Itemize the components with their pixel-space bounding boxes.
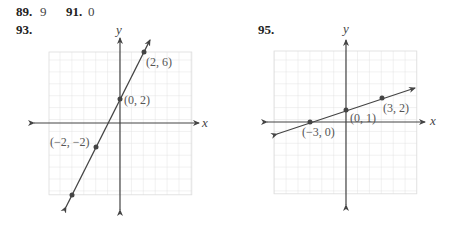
- point-2-6: [142, 50, 147, 55]
- label-neg2-neg2: (−2, −2): [50, 135, 90, 149]
- y-axis-label-93: y: [114, 22, 122, 37]
- graphs: x y (2, 6) (0, 2) (−2, −2) x y (3, 2) (0…: [0, 0, 461, 225]
- point-3-2: [380, 96, 385, 101]
- point-neg3-0: [308, 120, 313, 125]
- label-0-2: (0, 2): [124, 93, 150, 107]
- label-2-6: (2, 6): [146, 55, 172, 69]
- x-axis-label-95: x: [429, 113, 436, 128]
- graph-93: x y (2, 6) (0, 2) (−2, −2): [34, 22, 208, 210]
- y-axis-label-95: y: [341, 21, 349, 36]
- point-0-1: [344, 108, 349, 113]
- label-0-1: (0, 1): [350, 111, 376, 125]
- x-axis-label-93: x: [201, 115, 208, 130]
- point-0-2: [118, 97, 123, 102]
- point-neg4-neg6: [70, 193, 75, 198]
- label-3-2: (3, 2): [383, 101, 409, 115]
- label-neg3-0: (−3, 0): [302, 125, 335, 139]
- graph-95: x y (3, 2) (0, 1) (−3, 0): [267, 21, 436, 205]
- point-neg2-neg2: [94, 145, 99, 150]
